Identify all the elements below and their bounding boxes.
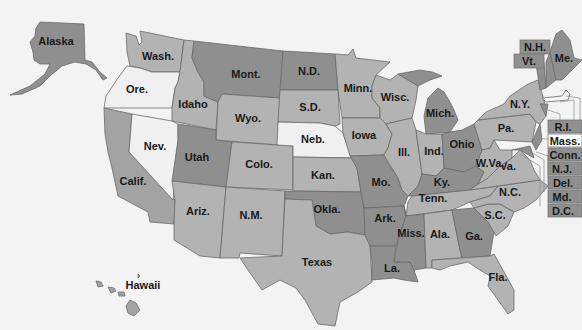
callout-nj[interactable]: N.J. xyxy=(548,162,582,175)
state-label: N.Y. xyxy=(510,98,530,110)
state-label: Pa. xyxy=(498,122,515,134)
state-kansas[interactable]: Kan. xyxy=(293,157,361,192)
state-label: Fla. xyxy=(489,271,508,283)
state-label: Alaska xyxy=(38,35,74,47)
state-label: W.Va. xyxy=(476,157,505,169)
callout-label: Vt. xyxy=(522,55,536,67)
state-label: Ala. xyxy=(430,228,450,240)
state-label: Wash. xyxy=(142,50,174,62)
state-label: Mo. xyxy=(372,176,391,188)
state-label: Mich. xyxy=(426,107,454,119)
state-label: Ore. xyxy=(126,83,148,95)
callout-ri[interactable]: R.I. xyxy=(548,120,582,133)
state-label: La. xyxy=(384,262,400,274)
state-iowa[interactable]: Iowa xyxy=(342,118,392,156)
state-label: Tenn. xyxy=(419,192,448,204)
state-label: Miss. xyxy=(397,227,425,239)
state-label: Ark. xyxy=(374,212,395,224)
callout-label: Conn. xyxy=(549,149,580,161)
state-label: Kan. xyxy=(311,169,335,181)
callout-label: Md. xyxy=(553,191,572,203)
callout-label: Del. xyxy=(553,177,573,189)
state-label: Hawaii xyxy=(126,279,161,291)
state-label: Utah xyxy=(185,151,210,163)
state-north-dakota[interactable]: N.D. xyxy=(280,51,338,90)
callout-nh[interactable]: N.H. xyxy=(520,40,550,54)
state-label: Mont. xyxy=(231,68,260,80)
callout-label: R.I. xyxy=(554,121,571,133)
state-label: Texas xyxy=(302,256,332,268)
state-label: Calif. xyxy=(120,175,147,187)
us-map: Alaska Hawaii Wash. Ore. Calif. Nev. Ida… xyxy=(0,0,582,330)
state-label: Ill. xyxy=(398,146,410,158)
callout-label: N.J. xyxy=(552,163,572,175)
state-label: Iowa xyxy=(352,129,377,141)
callout-label: N.H. xyxy=(524,41,546,53)
state-south-dakota[interactable]: S.D. xyxy=(278,90,340,126)
state-label: Wisc. xyxy=(381,91,410,103)
state-label: Ky. xyxy=(434,176,450,188)
state-label: Idaho xyxy=(178,98,208,110)
state-wyoming[interactable]: Wyo. xyxy=(216,94,280,145)
state-label: Me. xyxy=(555,52,573,64)
state-colorado[interactable]: Colo. xyxy=(226,142,293,190)
state-label: Okla. xyxy=(314,203,341,215)
callout-label: D.C. xyxy=(552,205,574,217)
state-label: S.C. xyxy=(484,209,505,221)
callout-dc[interactable]: D.C. xyxy=(548,204,582,217)
state-label: Ohio xyxy=(449,138,474,150)
state-montana[interactable]: Mont. xyxy=(192,41,283,102)
state-label: N.C. xyxy=(499,186,521,198)
state-label: N.M. xyxy=(239,209,262,221)
state-label: Minn. xyxy=(344,82,373,94)
state-label: Colo. xyxy=(245,158,273,170)
callout-vt[interactable]: Vt. xyxy=(514,54,544,68)
state-new-mexico[interactable]: N.M. xyxy=(220,187,285,258)
state-label: S.D. xyxy=(299,101,320,113)
state-label: Ga. xyxy=(465,230,483,242)
state-label: Ariz. xyxy=(186,205,210,217)
state-label: Ind. xyxy=(424,145,444,157)
callout-mass[interactable]: Mass. xyxy=(548,134,582,147)
state-label: Wyo. xyxy=(235,112,261,124)
state-label: N.D. xyxy=(298,65,320,77)
state-label: Neb. xyxy=(301,133,325,145)
callout-conn[interactable]: Conn. xyxy=(548,148,582,161)
callout-label: Mass. xyxy=(550,135,581,147)
state-label: Nev. xyxy=(144,140,166,152)
callout-md[interactable]: Md. xyxy=(548,190,582,203)
callout-del[interactable]: Del. xyxy=(548,176,582,189)
